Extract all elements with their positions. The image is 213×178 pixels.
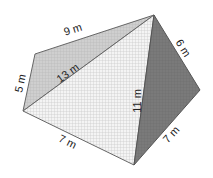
label-top-edge: 9 m: [62, 21, 83, 38]
label-vertical-edge: 11 m: [131, 89, 143, 113]
pyramid-diagram: 9 m 5 m 13 m 6 m 11 m 7 m 7 m: [0, 0, 213, 178]
label-left-short-edge: 5 m: [12, 73, 28, 93]
